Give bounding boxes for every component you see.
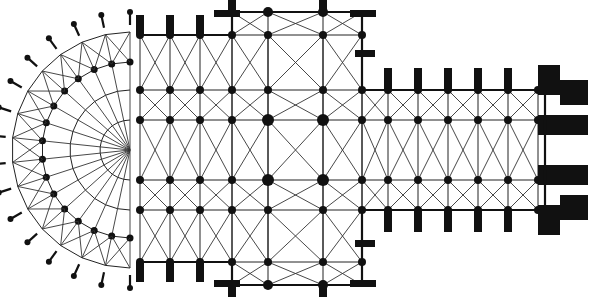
pier (319, 258, 327, 266)
apse-buttress-head (7, 78, 13, 84)
apse-buttress-head (24, 239, 30, 245)
transept-buttress (214, 280, 240, 287)
pier (444, 116, 452, 124)
pier (358, 258, 366, 266)
pier (136, 176, 144, 184)
pier (384, 176, 392, 184)
pier (384, 116, 392, 124)
pier (504, 176, 512, 184)
apse-rib (78, 221, 82, 258)
pier (444, 176, 452, 184)
pier (166, 206, 174, 214)
apse-rib (13, 138, 43, 160)
pier (136, 116, 144, 124)
apse-buttress (0, 163, 6, 164)
pier (317, 114, 329, 126)
apse-buttress-head (24, 55, 30, 61)
west-tower (560, 195, 588, 220)
apse-rib (61, 55, 65, 92)
west-tower (560, 80, 588, 105)
apse-rib (13, 123, 47, 138)
pier (319, 86, 327, 94)
west-tower (538, 65, 560, 95)
apse-rib (13, 141, 43, 163)
pier (166, 86, 174, 94)
pier (358, 86, 366, 94)
transept-buttress (355, 50, 375, 57)
apse-buttress-head (7, 216, 13, 222)
apse-rib (82, 150, 130, 258)
transept-buttress (319, 0, 327, 14)
pier (358, 176, 366, 184)
pier (166, 116, 174, 124)
transept-buttress (355, 240, 375, 247)
north-buttress (196, 15, 204, 35)
pier (264, 86, 272, 94)
apse-rib (42, 150, 130, 229)
nave-buttress (444, 68, 452, 90)
pier (166, 176, 174, 184)
pier (264, 31, 272, 39)
pier (228, 116, 236, 124)
apse-buttress-head (127, 9, 133, 15)
pier (263, 7, 273, 17)
apse-buttress-head (71, 273, 77, 279)
apse-buttress-head (127, 285, 133, 291)
north-buttress (166, 15, 174, 35)
apse-rib (42, 71, 78, 79)
pier (319, 206, 327, 214)
pier (317, 174, 329, 186)
pier (414, 116, 422, 124)
apse-rib (42, 221, 78, 229)
apse-buttress-head (0, 104, 2, 110)
apse-rib (18, 186, 54, 194)
apse-rib (13, 162, 47, 177)
nave-buttress (504, 210, 512, 232)
nave-buttress (474, 68, 482, 90)
apse-rib (78, 42, 82, 79)
transept-buttress (319, 283, 327, 297)
nave-buttress (504, 68, 512, 90)
pier (228, 206, 236, 214)
pier (474, 116, 482, 124)
pier (264, 258, 272, 266)
apse-rib (18, 106, 54, 114)
south-buttress (136, 262, 144, 282)
nave-buttress (384, 210, 392, 232)
apse-buttress-head (71, 21, 77, 27)
pier (264, 206, 272, 214)
pier (228, 176, 236, 184)
apse-buttress-head (46, 35, 52, 41)
apse-rib (82, 42, 130, 150)
apse-rib (61, 209, 65, 246)
transept-buttress (214, 10, 240, 17)
north-buttress (136, 15, 144, 35)
pier (263, 280, 273, 290)
pier (228, 258, 236, 266)
pier (136, 86, 144, 94)
pier (228, 31, 236, 39)
nave-buttress (384, 68, 392, 90)
pier (196, 176, 204, 184)
nave-buttress (444, 210, 452, 232)
cathedral-floor-plan (0, 0, 598, 297)
nave-buttress (474, 210, 482, 232)
pier (196, 116, 204, 124)
pier (319, 31, 327, 39)
south-buttress (196, 262, 204, 282)
apse-buttress-head (98, 12, 104, 18)
pier (136, 206, 144, 214)
pier (196, 86, 204, 94)
apse-buttress-head (98, 282, 104, 288)
apse-buttress-head (46, 259, 52, 265)
apse-buttress (0, 136, 6, 137)
transept-buttress (350, 280, 376, 287)
apse-buttress-head (0, 190, 2, 196)
nave-buttress (414, 68, 422, 90)
pier (262, 114, 274, 126)
transept-buttress (350, 10, 376, 17)
pier (196, 206, 204, 214)
pier (358, 206, 366, 214)
pier (262, 174, 274, 186)
west-tower (538, 205, 560, 235)
